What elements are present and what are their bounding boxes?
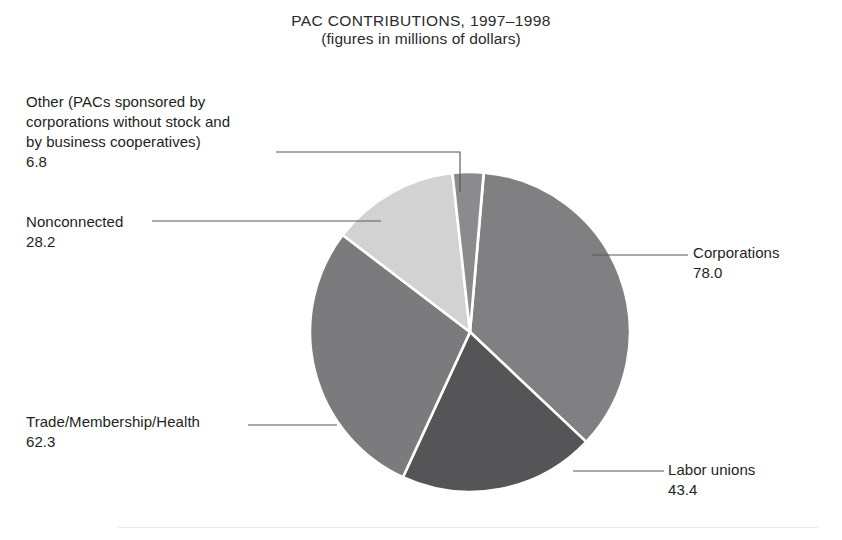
pie-slices xyxy=(310,172,630,492)
callout-other-label: Other (PACs sponsored by corporations wi… xyxy=(26,92,284,152)
callout-labor-value: 43.4 xyxy=(668,480,833,500)
callout-corporations: Corporations 78.0 xyxy=(693,243,838,283)
callout-corporations-value: 78.0 xyxy=(693,263,838,283)
bottom-rule xyxy=(118,527,818,528)
callout-other: Other (PACs sponsored by corporations wi… xyxy=(26,92,284,172)
callout-trade-value: 62.3 xyxy=(26,432,286,452)
callout-trade-label: Trade/Membership/Health xyxy=(26,412,286,432)
pie-chart-figure: PAC CONTRIBUTIONS, 1997–1998 (figures in… xyxy=(0,0,842,540)
callout-nonconnected-value: 28.2 xyxy=(26,232,206,252)
callout-labor-unions: Labor unions 43.4 xyxy=(668,460,833,500)
callout-nonconnected-label: Nonconnected xyxy=(26,212,206,232)
callout-other-value: 6.8 xyxy=(26,152,284,172)
callout-nonconnected: Nonconnected 28.2 xyxy=(26,212,206,252)
callout-trade-membership-health: Trade/Membership/Health 62.3 xyxy=(26,412,286,452)
callout-corporations-label: Corporations xyxy=(693,243,838,263)
callout-labor-label: Labor unions xyxy=(668,460,833,480)
